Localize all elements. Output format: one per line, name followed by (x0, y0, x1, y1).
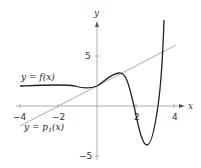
x-tick-label-neg4: −4 (13, 112, 27, 122)
x-axis-arrow-icon (179, 104, 185, 108)
x-axis-label: x (188, 101, 193, 111)
y-axis-arrow-icon (95, 21, 99, 27)
y-tick-label-5: 5 (85, 51, 91, 61)
f-curve-label: y = f(x) (20, 72, 55, 82)
chart-svg: −4 −2 2 4 5 −5 x y y = f(x) y = p1(x) (0, 0, 201, 168)
x-tick-label-neg2: −2 (52, 112, 65, 122)
y-tick-label-neg5: −5 (79, 151, 92, 161)
y-axis-label: y (93, 8, 100, 18)
x-tick-label-4: 4 (172, 112, 178, 122)
p1-line-label: y = p1(x) (23, 122, 65, 133)
